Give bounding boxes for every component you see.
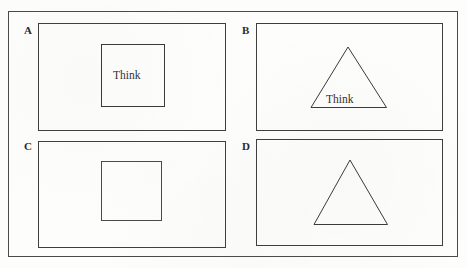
figure-line-art: [0, 0, 467, 268]
panel-label-b: B: [242, 25, 249, 36]
panel-c-square: [102, 162, 162, 221]
panel-a-square-text: Think: [113, 70, 140, 82]
panel-b-triangle-text: Think: [326, 94, 353, 106]
panel-d-rectangle: [257, 140, 443, 246]
panel-label-a: A: [24, 25, 32, 36]
panel-b-rectangle: [257, 24, 443, 131]
figure-page: A B C D Think Think: [0, 0, 467, 268]
panel-label-d: D: [242, 141, 250, 152]
panel-c-rectangle: [39, 142, 226, 248]
panel-d-triangle: [314, 160, 388, 225]
outer-frame: [9, 12, 458, 257]
panel-label-c: C: [24, 141, 32, 152]
